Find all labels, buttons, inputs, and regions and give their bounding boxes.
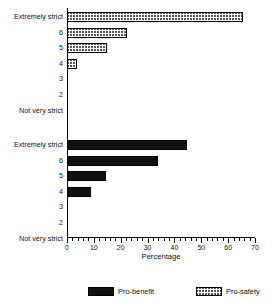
category-label: 4 — [59, 185, 63, 199]
category-row: 3 — [67, 200, 255, 214]
category-label: 5 — [59, 41, 63, 55]
legend-swatch-pro-benefit — [88, 287, 114, 296]
x-tick-minor — [78, 238, 79, 241]
x-tick-minor — [115, 238, 116, 241]
x-tick-major — [67, 238, 68, 243]
x-tick-label: 0 — [65, 244, 69, 251]
x-tick-major — [201, 238, 202, 243]
category-label: Extremely strict — [14, 10, 63, 24]
x-tick-minor — [164, 238, 165, 241]
x-tick-minor — [83, 238, 84, 241]
legend-label-pro-safety: Pro-safety — [226, 287, 260, 296]
category-label: 6 — [59, 26, 63, 40]
legend-swatch-pro-safety — [196, 287, 222, 296]
x-tick-minor — [217, 238, 218, 241]
bar — [67, 43, 107, 53]
x-tick-label: 20 — [117, 244, 125, 251]
category-label: Extremely strict — [14, 138, 63, 152]
category-row: 6 — [67, 154, 255, 168]
x-axis-title: Percentage — [67, 252, 255, 261]
x-tick-minor — [126, 238, 127, 241]
x-tick-minor — [142, 238, 143, 241]
category-row: 2 — [67, 88, 255, 102]
x-tick-minor — [207, 238, 208, 241]
category-row: 3 — [67, 72, 255, 86]
legend-item-pro-safety: Pro-safety — [196, 285, 260, 297]
x-tick-minor — [191, 238, 192, 241]
chart-legend: Pro-benefit Pro-safety — [0, 285, 272, 301]
bar — [67, 156, 158, 166]
bar — [67, 187, 91, 197]
x-tick-label: 70 — [251, 244, 259, 251]
x-tick-minor — [244, 238, 245, 241]
legend-item-pro-benefit: Pro-benefit — [88, 285, 154, 297]
category-label: 4 — [59, 57, 63, 71]
bar — [67, 140, 187, 150]
x-tick-label: 40 — [171, 244, 179, 251]
x-tick-major — [174, 238, 175, 243]
x-tick-label: 30 — [144, 244, 152, 251]
x-tick-minor — [110, 238, 111, 241]
x-tick-minor — [239, 238, 240, 241]
x-tick-major — [255, 238, 256, 243]
x-tick-minor — [153, 238, 154, 241]
x-tick-label: 50 — [197, 244, 205, 251]
x-tick-label: 60 — [224, 244, 232, 251]
category-label: 5 — [59, 169, 63, 183]
bar — [67, 59, 77, 69]
category-row: 6 — [67, 26, 255, 40]
category-label: Not very strict — [19, 104, 63, 118]
category-row: Extremely strict — [67, 10, 255, 24]
x-tick-minor — [234, 238, 235, 241]
category-label: Not very strict — [19, 232, 63, 246]
x-tick-minor — [99, 238, 100, 241]
legend-label-pro-benefit: Pro-benefit — [118, 287, 154, 296]
x-tick-minor — [131, 238, 132, 241]
x-tick-minor — [169, 238, 170, 241]
bar — [67, 12, 243, 22]
category-row: 2 — [67, 216, 255, 230]
x-tick-major — [148, 238, 149, 243]
x-tick-major — [228, 238, 229, 243]
category-label: 2 — [59, 88, 63, 102]
category-row: Extremely strict — [67, 138, 255, 152]
category-row: 4 — [67, 57, 255, 71]
x-tick-minor — [72, 238, 73, 241]
category-row: 4 — [67, 185, 255, 199]
panel-pro-benefit: Extremely strict65432Not very strict — [67, 138, 255, 308]
x-tick-minor — [88, 238, 89, 241]
x-tick-major — [121, 238, 122, 243]
x-tick-minor — [250, 238, 251, 241]
x-tick-minor — [137, 238, 138, 241]
x-tick-minor — [105, 238, 106, 241]
x-tick-minor — [212, 238, 213, 241]
category-label: 6 — [59, 154, 63, 168]
x-tick-minor — [158, 238, 159, 241]
x-tick-label: 10 — [90, 244, 98, 251]
bar — [67, 171, 106, 181]
category-label: 2 — [59, 216, 63, 230]
category-label: 3 — [59, 200, 63, 214]
bar — [67, 28, 127, 38]
x-tick-minor — [223, 238, 224, 241]
category-row: 5 — [67, 169, 255, 183]
category-row: 5 — [67, 41, 255, 55]
x-tick-minor — [196, 238, 197, 241]
x-tick-major — [94, 238, 95, 243]
bar-chart: Extremely strict65432Not very strict Ext… — [0, 0, 272, 308]
x-tick-minor — [180, 238, 181, 241]
category-row: Not very strict — [67, 104, 255, 118]
category-label: 3 — [59, 72, 63, 86]
x-tick-minor — [185, 238, 186, 241]
